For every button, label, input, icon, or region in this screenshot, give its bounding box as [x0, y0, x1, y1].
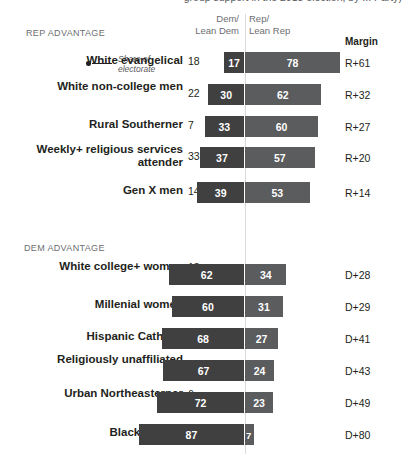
- column-header-rep-line1: Rep/: [249, 13, 335, 25]
- bar-value-dem: 68: [162, 333, 244, 345]
- bar-segment-rep: 53: [245, 182, 310, 203]
- bar-value-dem: 62: [169, 269, 244, 281]
- column-header-dem: Dem/ Lean Dem: [165, 13, 239, 36]
- bar-value-rep: 62: [245, 89, 321, 101]
- bar-segment-dem: 60: [172, 296, 245, 317]
- row-bar-group: 3757: [0, 147, 406, 168]
- bar-value-rep: 24: [245, 365, 274, 377]
- chart-title-clipped: group support in the 2018 election, by .…: [0, 0, 406, 9]
- bar-value-dem: 72: [157, 397, 244, 409]
- bar-segment-rep: 60: [245, 116, 318, 137]
- row-bar-group: 1778: [0, 52, 406, 73]
- column-header-rep: Rep/ Lean Rep: [249, 13, 335, 36]
- bar-segment-dem: 72: [157, 392, 245, 413]
- row-bar-group: 6827: [0, 328, 406, 349]
- bar-value-rep: 7: [246, 429, 254, 440]
- bar-segment-rep: 34: [245, 264, 286, 285]
- row-bar-group: 3360: [0, 116, 406, 137]
- bar-value-dem: 33: [205, 121, 244, 133]
- bar-segment-dem: 68: [162, 328, 245, 349]
- bar-segment-dem: 17: [224, 52, 245, 73]
- row-bar-group: 877: [0, 424, 406, 445]
- bar-segment-dem: 62: [169, 264, 245, 285]
- row-bar-group: 3062: [0, 84, 406, 105]
- row-bar-group: 7223: [0, 392, 406, 413]
- bar-value-dem: 17: [224, 57, 244, 69]
- bar-value-rep: 34: [245, 269, 286, 281]
- chart-title-text: group support in the 2018 election, by .…: [0, 0, 406, 3]
- column-header-margin: Margin: [345, 36, 378, 47]
- bar-value-rep: 60: [245, 121, 318, 133]
- bar-value-dem: 87: [139, 429, 244, 441]
- bar-value-rep: 31: [245, 301, 283, 313]
- bar-segment-rep: 24: [245, 360, 274, 381]
- column-header-rep-line2: Lean Rep: [249, 25, 335, 37]
- bar-value-rep: 53: [245, 187, 310, 199]
- section-label-rep-advantage: REP ADVANTAGE: [26, 28, 105, 38]
- bar-segment-rep: 62: [245, 84, 321, 105]
- bar-segment-dem: 39: [197, 182, 245, 203]
- bar-value-rep: 57: [245, 152, 315, 164]
- bar-value-rep: 27: [245, 333, 278, 345]
- bar-segment-rep: 27: [245, 328, 278, 349]
- section-label-dem-advantage: DEM ADVANTAGE: [24, 243, 105, 253]
- row-bar-group: 6031: [0, 296, 406, 317]
- bar-segment-dem: 37: [200, 147, 245, 168]
- bar-segment-rep: 23: [245, 392, 273, 413]
- bar-value-rep: 23: [245, 397, 273, 409]
- row-bar-group: 6724: [0, 360, 406, 381]
- bar-value-dem: 67: [163, 365, 244, 377]
- bar-segment-dem: 87: [139, 424, 245, 445]
- bar-value-dem: 30: [208, 89, 244, 101]
- bar-segment-rep: 7: [245, 424, 254, 445]
- bar-value-dem: 60: [172, 301, 244, 313]
- bar-segment-dem: 33: [205, 116, 245, 137]
- column-header-dem-line2: Lean Dem: [165, 25, 239, 37]
- bar-segment-dem: 30: [208, 84, 245, 105]
- bar-value-dem: 39: [197, 187, 244, 199]
- bar-segment-rep: 57: [245, 147, 315, 168]
- bar-value-dem: 37: [200, 152, 244, 164]
- row-bar-group: 6234: [0, 264, 406, 285]
- column-header-dem-line1: Dem/: [165, 13, 239, 25]
- survey-bar-chart: group support in the 2018 election, by .…: [0, 0, 406, 462]
- bar-segment-rep: 31: [245, 296, 283, 317]
- row-bar-group: 3953: [0, 182, 406, 203]
- bar-segment-rep: 78: [245, 52, 340, 73]
- bar-segment-dem: 67: [163, 360, 245, 381]
- bar-value-rep: 78: [245, 57, 340, 69]
